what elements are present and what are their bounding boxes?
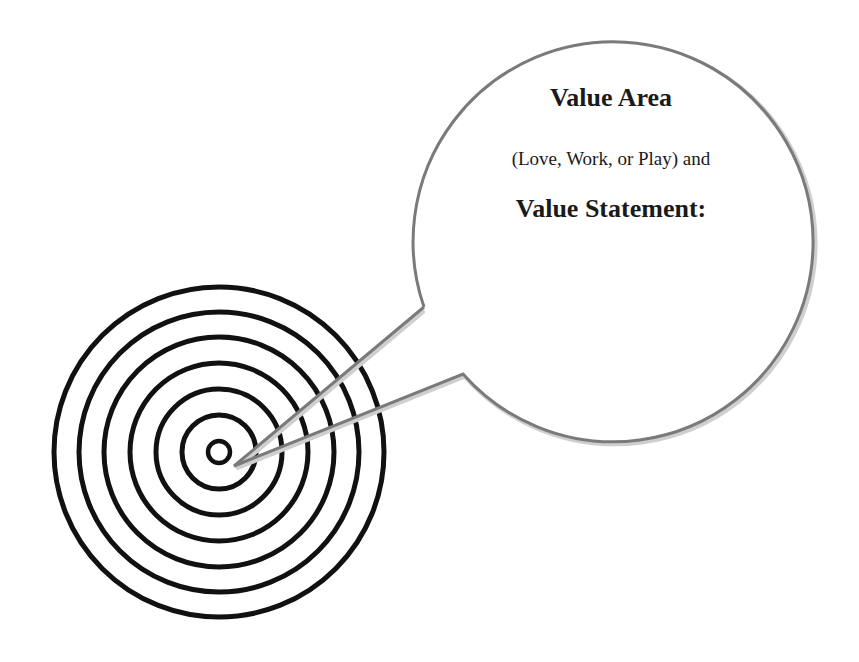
target-ring-2 [79,312,359,592]
value-area-subtitle: (Love, Work, or Play) and [431,148,791,170]
value-area-title: Value Area [431,83,791,113]
target-ring-3 [104,337,334,567]
target-ring-5 [156,389,282,515]
target-icon [54,287,384,617]
target-ring-6 [182,415,256,489]
value-statement-label: Value Statement: [431,194,791,224]
target-bullseye [208,441,230,463]
